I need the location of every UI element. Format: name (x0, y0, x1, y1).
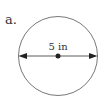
center-point (56, 54, 61, 59)
left-arrowhead-icon (19, 53, 28, 59)
circle-diagram: 5 in (0, 0, 106, 99)
right-arrowhead-icon (89, 53, 98, 59)
diameter-label: 5 in (48, 41, 68, 52)
